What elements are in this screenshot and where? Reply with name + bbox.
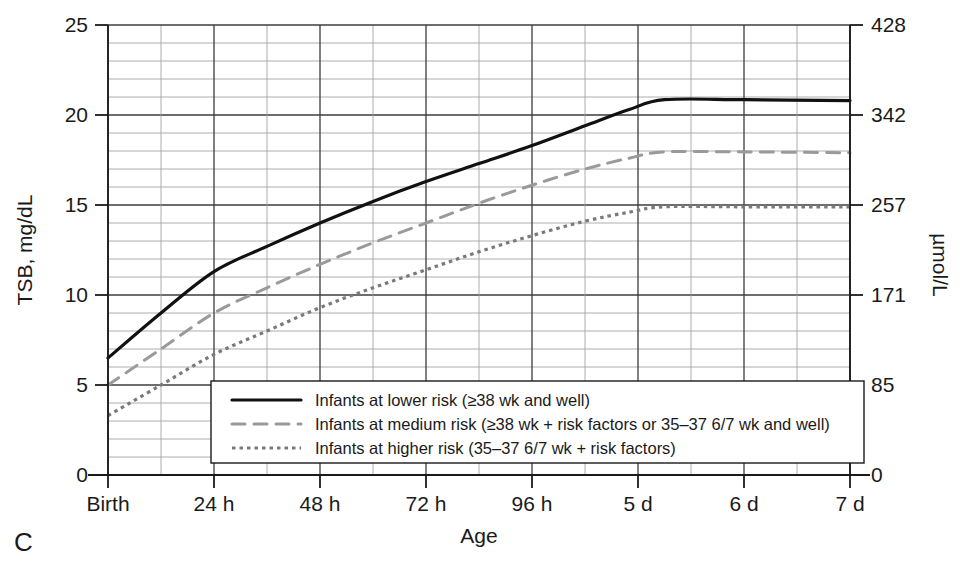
x-axis-tick-label: 6 d — [729, 492, 758, 515]
x-axis-tick-label: 96 h — [512, 492, 553, 515]
y-axis-left-title: TSB, mg/dL — [13, 195, 36, 306]
x-axis-tick-label: 24 h — [194, 492, 235, 515]
x-axis-tick-label: 72 h — [406, 492, 447, 515]
x-axis-tick-label: 5 d — [623, 492, 652, 515]
y-axis-left-tick-label: 0 — [76, 463, 88, 486]
x-axis-tick-label: 48 h — [300, 492, 341, 515]
y-axis-right-tick-label: 0 — [871, 463, 883, 486]
y-axis-right-tick-label: 342 — [871, 103, 906, 126]
y-axis-right-tick-label: 257 — [871, 193, 906, 216]
y-axis-right-tick-label: 171 — [871, 283, 906, 306]
y-axis-right-title: µmol/L — [929, 233, 952, 296]
x-axis-tick-label: 7 d — [835, 492, 864, 515]
y-axis-right-tick-label: 428 — [871, 13, 906, 36]
legend-label-dashed: Infants at medium risk (≥38 wk + risk fa… — [315, 415, 830, 433]
y-axis-left-tick-label: 15 — [65, 193, 88, 216]
y-axis-left-tick-label: 25 — [65, 13, 88, 36]
phototherapy-chart-figure: 0510152025085171257342428Birth24 h48 h72… — [0, 0, 966, 572]
chart-svg: 0510152025085171257342428Birth24 h48 h72… — [0, 0, 966, 572]
x-axis-tick-label: Birth — [86, 492, 129, 515]
y-axis-left-tick-label: 5 — [76, 373, 88, 396]
x-axis-title: Age — [460, 524, 497, 547]
legend-label-dotted: Infants at higher risk (35–37 6/7 wk + r… — [315, 439, 676, 457]
panel-letter: C — [14, 527, 33, 557]
y-axis-left-tick-label: 20 — [65, 103, 88, 126]
legend-label-solid: Infants at lower risk (≥38 wk and well) — [315, 391, 590, 409]
y-axis-left-tick-label: 10 — [65, 283, 88, 306]
y-axis-right-tick-label: 85 — [871, 373, 894, 396]
